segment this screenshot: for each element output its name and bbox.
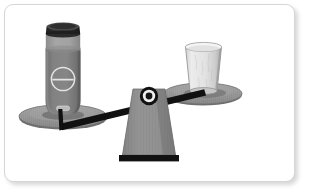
fulcrum-base <box>119 155 179 161</box>
screenshot-root <box>0 0 309 195</box>
balance-scale-scene <box>5 5 294 181</box>
pivot-bolt <box>140 87 158 105</box>
paper-cup <box>184 42 226 98</box>
left-pan-group <box>19 22 107 129</box>
balance-scale-artwork <box>5 5 294 181</box>
gray-bottle <box>42 22 84 120</box>
illustration-frame <box>4 4 295 182</box>
